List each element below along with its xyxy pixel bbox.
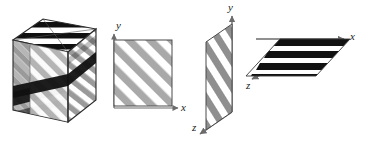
striped-cube-svg bbox=[0, 0, 105, 144]
square-x-axis-label: x bbox=[181, 102, 186, 113]
vertical-plane-z-axis-label: z bbox=[192, 122, 196, 133]
horizontal-plane-striped-region bbox=[246, 39, 352, 78]
panel-striped-cube bbox=[0, 0, 105, 144]
vertical-plane-y-axis-label: y bbox=[228, 2, 233, 13]
horizontal-plane-z-axis-label: z bbox=[246, 80, 250, 91]
figure-root: y x y z bbox=[0, 0, 378, 144]
square-striped-region bbox=[114, 40, 172, 106]
square-y-axis-label: y bbox=[116, 20, 121, 31]
horizontal-plane-x-axis-label: x bbox=[350, 31, 355, 42]
vertical-plane-striped-region bbox=[206, 24, 232, 130]
horizontal-plane-svg bbox=[240, 0, 378, 144]
panel-striped-square-xy: y x bbox=[105, 0, 190, 144]
panel-striped-plane-xz: x z bbox=[240, 0, 378, 144]
